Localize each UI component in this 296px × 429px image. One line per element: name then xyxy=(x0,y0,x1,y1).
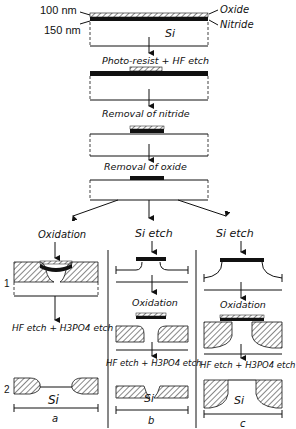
row-2-label: 2 xyxy=(4,384,10,395)
pointer-nitride xyxy=(209,20,218,25)
step3-label: Removal of oxide xyxy=(104,161,187,172)
nitride-label: Nitride xyxy=(220,19,254,30)
si-label-top: Si xyxy=(165,27,175,40)
col-b-si-etch: Si etch xyxy=(135,227,173,240)
col-a-etch: HF etch + H3PO4 etch xyxy=(12,323,113,333)
oxide-label: Oxide xyxy=(220,4,249,15)
step-remove-oxide: Removal of oxide xyxy=(90,161,208,200)
column-a: Oxidation 1 HF etch + H3PO4 etch 2 Si a xyxy=(4,229,113,424)
col-c-oxidation: Oxidation xyxy=(220,299,266,310)
pointer-oxide xyxy=(209,10,218,14)
dim-100nm: 100 nm xyxy=(40,4,77,16)
pointer-150nm xyxy=(80,21,90,24)
col-c-etch: HF etch + H3PO4 etch xyxy=(200,360,295,370)
col-c-si-etch: Si etch xyxy=(216,227,254,240)
si-label-b: Si xyxy=(144,392,154,405)
column-a-label: a xyxy=(52,413,58,424)
dim-150nm: 150 nm xyxy=(44,24,81,36)
step1-label: Photo-resist + HF etch xyxy=(102,55,209,66)
column-c: Si etch Oxidation HF etch + H3PO4 etch S… xyxy=(200,227,295,429)
initial-stack: 100 nm 150 nm Oxide Nitride Si xyxy=(40,4,254,53)
locos-process-diagram: 100 nm 150 nm Oxide Nitride Si Photo-res… xyxy=(0,0,296,429)
si-label-a: Si xyxy=(48,393,60,407)
branch-arrows xyxy=(73,200,226,218)
col-b-oxidation: Oxidation xyxy=(132,297,178,308)
column-c-label: c xyxy=(240,418,246,429)
nitride-layer xyxy=(90,17,208,21)
step-photoresist: Photo-resist + HF etch xyxy=(90,55,209,106)
row-1-label: 1 xyxy=(4,278,10,289)
step2-label: Removal of nitride xyxy=(102,108,190,119)
col-b-etch: HF etch + H3PO4 etch xyxy=(106,358,201,368)
nitride-layer xyxy=(90,71,208,76)
pointer-100nm xyxy=(80,12,90,15)
oxide-layer xyxy=(90,13,208,17)
step-remove-nitride: Removal of nitride xyxy=(90,108,208,160)
si-label-c: Si xyxy=(234,394,244,407)
column-b-label: b xyxy=(148,415,154,426)
col-a-oxidation: Oxidation xyxy=(38,229,86,240)
column-b: Si etch Oxidation HF etch + H3PO4 etch S… xyxy=(106,227,201,426)
